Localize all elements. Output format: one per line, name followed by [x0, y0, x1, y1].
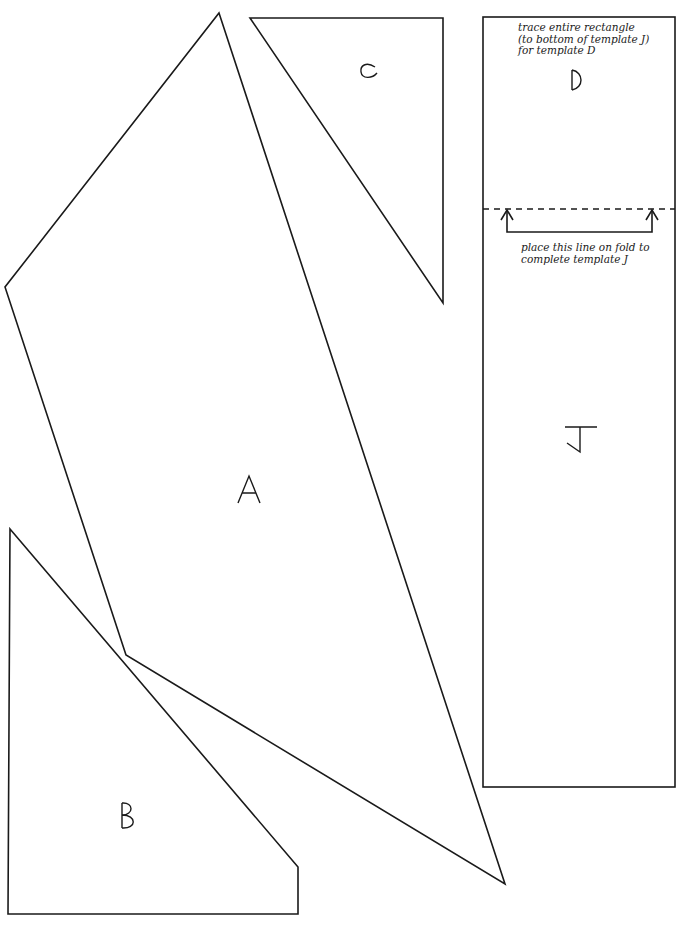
- trace-instruction: trace entire rectangle (to bottom of tem…: [518, 22, 649, 57]
- trace-line-1: trace entire rectangle: [518, 22, 649, 34]
- template-sheet: [0, 0, 680, 925]
- fold-line-2: complete template J: [521, 254, 649, 266]
- template-dj-rectangle: [483, 17, 675, 787]
- fold-line-1: place this line on fold to: [521, 242, 649, 254]
- template-c-outline: [250, 18, 443, 303]
- label-c-glyph: [361, 64, 377, 77]
- fold-instruction: place this line on fold to complete temp…: [521, 242, 649, 265]
- label-a-glyph: [238, 476, 260, 503]
- label-b-glyph: [122, 803, 133, 828]
- label-d-glyph: [572, 70, 581, 90]
- template-b-outline: [8, 529, 298, 914]
- trace-line-3: for template D: [518, 45, 649, 57]
- template-a-outline: [5, 13, 505, 884]
- label-j-glyph: [565, 427, 597, 452]
- fold-bracket: [507, 210, 652, 232]
